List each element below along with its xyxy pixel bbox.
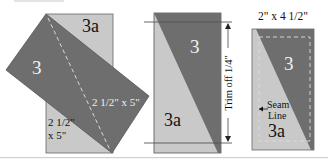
panel2-light-label: 3a (164, 110, 181, 130)
panel3-light-label: 3a (268, 121, 285, 141)
panel1-dark-size-label: 2 1/2" x 5" (92, 96, 140, 108)
seam-label-line1: Seam (267, 99, 289, 110)
panel2-dark-label: 3 (190, 36, 200, 57)
seam-label-line2: Line (268, 110, 287, 121)
panel1-light-label: 3a (82, 16, 99, 36)
panel3-size-title: 2" x 4 1/2" (258, 10, 308, 22)
arrow-up-icon (225, 23, 231, 29)
quilt-block-diagram: 3 3a 2 1/2" x 5" 2 1/2" x 5" 3 3a Trim o… (0, 0, 328, 165)
arrow-down-icon (225, 136, 231, 142)
cropped-text-top (14, 0, 64, 2)
panel1-dark-label: 3 (32, 57, 42, 78)
trim-label: Trim off 1/4" (223, 55, 234, 111)
panel1-light-size-line1: 2 1/2" (48, 116, 75, 128)
panel-2-trim: 3 3a Trim off 1/4" (144, 13, 234, 153)
panel1-light-size-line2: x 5" (48, 129, 66, 141)
panel3-dark-label: 3 (284, 53, 294, 74)
cropped-rule-bottom (0, 157, 328, 158)
panel-3-finished: 2" x 4 1/2" 3 3a Seam Line (252, 10, 314, 150)
panel-1-placement: 3 3a 2 1/2" x 5" 2 1/2" x 5" (6, 14, 149, 153)
